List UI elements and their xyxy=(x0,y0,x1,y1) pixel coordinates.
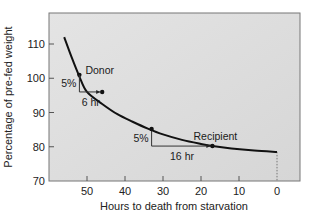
percent-label: 5% xyxy=(133,132,148,144)
starvation-weight-chart: 708090100110 50403020100 DonorRecipient5… xyxy=(0,0,314,219)
data-point xyxy=(149,127,153,131)
hours-label: 6 hr xyxy=(82,96,101,108)
x-tick-label: 10 xyxy=(233,185,245,197)
y-axis-title: Percentage of pre-fed weight xyxy=(2,26,14,167)
y-tick-label: 80 xyxy=(33,141,45,153)
data-point xyxy=(210,144,214,148)
recipient-label: Recipient xyxy=(194,130,238,142)
hours-label: 16 hr xyxy=(170,150,194,162)
y-tick-label: 100 xyxy=(27,72,45,84)
y-tick-label: 70 xyxy=(33,175,45,187)
x-tick-label: 30 xyxy=(157,185,169,197)
y-tick-label: 90 xyxy=(33,107,45,119)
x-tick-label: 50 xyxy=(81,185,93,197)
percent-label: 5% xyxy=(61,77,76,89)
x-axis-title: Hours to death from starvation xyxy=(100,200,248,212)
y-tick-label: 110 xyxy=(27,38,45,50)
x-tick-label: 40 xyxy=(119,185,131,197)
x-tick-label: 0 xyxy=(274,185,280,197)
donor-label: Donor xyxy=(85,64,114,76)
x-tick-label: 20 xyxy=(195,185,207,197)
data-point xyxy=(100,90,104,94)
